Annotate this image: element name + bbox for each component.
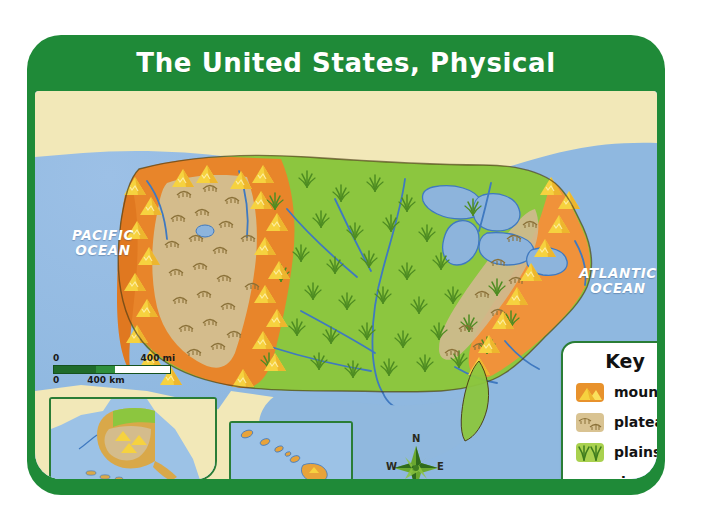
- rivers-swatch-icon: [576, 473, 604, 480]
- key-label-plateaus: plateaus: [614, 414, 657, 430]
- key-item-mountains[interactable]: mountains: [563, 377, 657, 407]
- pacific-ocean-label: PACIFIC OCEAN: [53, 228, 153, 258]
- key-label-rivers: rivers: [614, 474, 657, 479]
- scale-bar-graphic: [53, 365, 171, 374]
- atlantic-ocean-label: ATLANTIC OCEAN: [563, 266, 657, 296]
- map-key[interactable]: Key mountains: [561, 341, 657, 479]
- scale-miles-max: 400 mi: [141, 353, 175, 364]
- title-banner: The United States, Physical: [27, 35, 665, 91]
- alaska-inset[interactable]: [49, 397, 217, 479]
- mountains-swatch-icon: [576, 383, 604, 402]
- scale-miles-zero: 0: [53, 353, 59, 364]
- scale-miles-row: 0 400 mi: [53, 353, 175, 364]
- scale-km-row: 0 400 km: [53, 375, 175, 386]
- alaska-inset-map: [51, 399, 217, 479]
- key-title: Key: [563, 350, 657, 372]
- compass-rose: N S W E: [385, 435, 447, 479]
- pacific-ocean-line-1: PACIFIC: [53, 228, 153, 243]
- key-label-plains: plains: [614, 444, 657, 460]
- compass-north-label: N: [412, 433, 420, 444]
- page-title: The United States, Physical: [136, 48, 555, 78]
- atlantic-ocean-line-2: OCEAN: [563, 281, 657, 296]
- scale-segment-2: [96, 366, 116, 373]
- scale-bar: 0 400 mi 0 400 km: [53, 353, 175, 386]
- key-item-rivers[interactable]: rivers: [563, 467, 657, 479]
- plateaus-swatch-icon: [576, 413, 604, 432]
- map-canvas[interactable]: PACIFIC OCEAN ATLANTIC OCEAN 0 400 mi: [35, 91, 657, 479]
- key-item-plateaus[interactable]: plateaus: [563, 407, 657, 437]
- hawaii-inset[interactable]: [229, 421, 353, 479]
- scale-km-zero: 0: [53, 375, 59, 386]
- pacific-ocean-line-2: OCEAN: [53, 243, 153, 258]
- map-outer-frame: The United States, Physical: [27, 35, 665, 495]
- compass-east-label: E: [437, 461, 444, 472]
- scale-segment-1: [54, 366, 96, 373]
- scale-km-max: 400 km: [87, 375, 124, 386]
- key-item-plains[interactable]: plains: [563, 437, 657, 467]
- plains-swatch-icon: [576, 443, 604, 462]
- atlantic-ocean-line-1: ATLANTIC: [563, 266, 657, 281]
- key-label-mountains: mountains: [614, 384, 657, 400]
- compass-west-label: W: [386, 461, 397, 472]
- map-page: The United States, Physical: [0, 0, 710, 528]
- hawaii-inset-map: [231, 423, 353, 479]
